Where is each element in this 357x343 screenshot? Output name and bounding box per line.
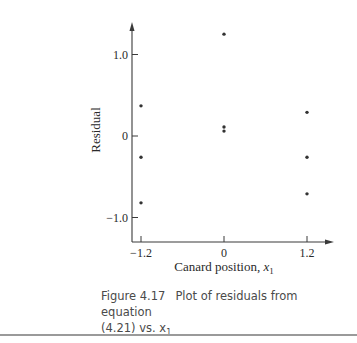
data-point <box>222 129 225 132</box>
y-tick-label: 0 <box>122 129 128 143</box>
x-axis-arrow-icon <box>325 240 334 245</box>
x-tick-label: −1.2 <box>130 246 152 260</box>
section-divider <box>0 334 357 336</box>
caption-line-2: (4.21) vs. x <box>101 321 166 335</box>
data-points <box>139 32 308 204</box>
axes <box>130 22 335 245</box>
data-point <box>222 32 225 35</box>
data-point <box>305 111 308 114</box>
figure-number: Figure 4.17 <box>101 289 165 303</box>
x-tick-label: 1.2 <box>300 246 315 260</box>
x-tick-label: 0 <box>221 246 227 260</box>
data-point <box>222 125 225 128</box>
y-tick-label: 1.0 <box>113 48 128 62</box>
data-point <box>139 201 142 204</box>
y-axis-label: Residual <box>88 107 103 153</box>
data-point <box>305 155 308 158</box>
y-axis-arrow-icon <box>130 22 135 31</box>
data-point <box>139 155 142 158</box>
data-point <box>305 192 308 195</box>
y-tick-label: −1.0 <box>106 211 128 225</box>
axis-ticks: −1.001.0−1.201.2 <box>106 48 314 261</box>
x-axis-label: Canard position, x1 <box>174 259 273 276</box>
data-point <box>139 104 142 107</box>
